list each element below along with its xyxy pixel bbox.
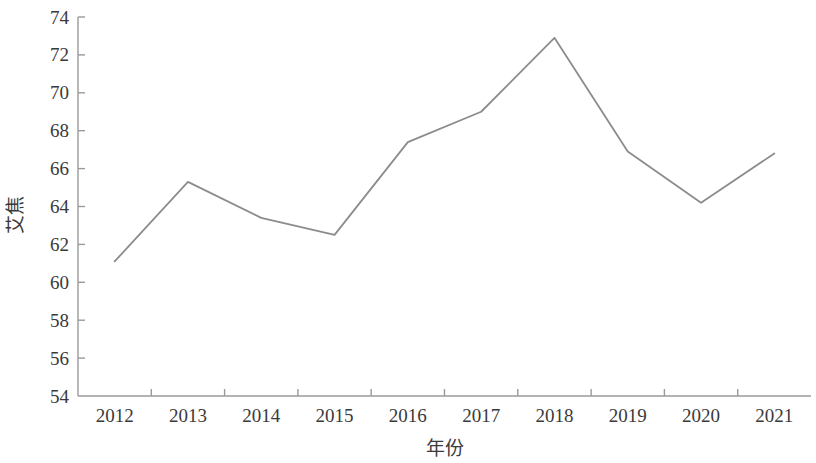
y-axis-tick-label: 58 <box>50 310 69 331</box>
x-axis-tick-label: 2014 <box>242 405 281 426</box>
y-axis-tick-label: 54 <box>50 386 70 407</box>
x-axis-tick-label: 2017 <box>462 405 500 426</box>
x-axis-tick-label: 2016 <box>389 405 427 426</box>
x-axis-tick-label: 2020 <box>682 405 720 426</box>
chart-background <box>0 0 816 463</box>
x-axis-tick-label: 2012 <box>96 405 134 426</box>
x-axis-tick-label: 2013 <box>169 405 207 426</box>
x-axis-title: 年份 <box>426 438 464 459</box>
chart-canvas: 5456586062646668707274 20122013201420152… <box>0 0 816 463</box>
x-axis-tick-label: 2019 <box>609 405 647 426</box>
y-axis-tick-label: 66 <box>50 158 69 179</box>
y-axis-tick-label: 70 <box>50 82 69 103</box>
y-axis-tick-label: 68 <box>50 120 69 141</box>
x-axis-tick-label: 2018 <box>535 405 573 426</box>
line-chart: 5456586062646668707274 20122013201420152… <box>0 0 816 463</box>
y-axis-tick-label: 74 <box>50 7 70 28</box>
y-axis-tick-label: 72 <box>50 44 69 65</box>
y-axis-tick-label: 64 <box>50 196 70 217</box>
x-axis-tick-label: 2021 <box>755 405 793 426</box>
y-axis-tick-label: 62 <box>50 234 69 255</box>
y-axis-title: 艾焦 <box>5 196 26 234</box>
y-axis-tick-label: 56 <box>50 348 69 369</box>
x-axis-tick-label: 2015 <box>316 405 354 426</box>
y-axis-tick-label: 60 <box>50 272 69 293</box>
